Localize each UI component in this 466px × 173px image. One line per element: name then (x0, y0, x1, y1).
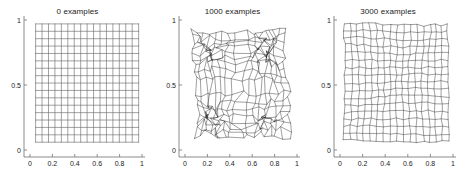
mesh-col-line (245, 35, 258, 135)
mesh-col-line (447, 24, 450, 141)
mesh-row-line (345, 52, 448, 55)
mesh-lattice (36, 24, 139, 142)
figure-canvas: 0 examples00.20.40.60.8100.51 1000 examp… (0, 0, 466, 173)
mesh-row-line (345, 59, 448, 61)
x-tick-label: 0.2 (203, 160, 213, 167)
y-tick-label: 0 (0, 147, 21, 154)
mesh-col-line (401, 24, 404, 142)
mesh-col-line (227, 33, 236, 137)
subplot-0-examples: 0 examples00.20.40.60.8100.51 (0, 0, 155, 173)
x-tick-label: 0.6 (403, 160, 413, 167)
mesh-row-line (344, 118, 448, 120)
subplot-1000-examples: 1000 examples00.20.40.60.8100.51 (155, 0, 310, 173)
mesh-row-line (344, 125, 449, 127)
mesh-col-line (427, 24, 431, 142)
mesh-row-line (343, 133, 449, 135)
plot-area (0, 0, 155, 173)
x-tick-label: 0.6 (247, 160, 257, 167)
mesh-row-line (346, 66, 448, 68)
x-tick-label: 0.2 (358, 160, 368, 167)
mesh-col-line (414, 24, 417, 142)
mesh-col-line (343, 24, 345, 140)
mesh-col-line (363, 23, 366, 141)
y-tick-label: 0 (155, 147, 176, 154)
mesh-row-line (344, 36, 448, 40)
y-tick-label: 1 (0, 17, 21, 24)
mesh-col-line (434, 24, 436, 142)
x-tick-label: 0.8 (115, 160, 125, 167)
mesh-row-line (344, 110, 448, 114)
y-tick-label: 0 (310, 147, 331, 154)
mesh-row-line (194, 66, 285, 78)
y-tick-label: 1 (310, 17, 331, 24)
y-tick-label: 0.5 (0, 82, 21, 89)
mesh-row-line (197, 114, 287, 125)
x-tick-label: 1 (451, 160, 455, 167)
mesh-row-line (343, 139, 449, 142)
plot-area (310, 0, 466, 173)
mesh-col-line (383, 25, 385, 142)
plot-area (155, 0, 310, 173)
x-tick-label: 0 (183, 160, 187, 167)
mesh-row-line (345, 81, 448, 85)
mesh-row-line (198, 97, 288, 111)
mesh-col-line (350, 23, 353, 139)
y-tick-label: 1 (155, 17, 176, 24)
mesh-col-line (390, 24, 391, 141)
mesh-col-line (369, 23, 373, 141)
x-tick-label: 0.6 (92, 160, 102, 167)
x-tick-label: 0.4 (380, 160, 390, 167)
y-tick-label: 0.5 (155, 82, 176, 89)
mesh-col-line (356, 24, 359, 140)
mesh-col-line (201, 33, 212, 130)
x-tick-label: 0.8 (426, 160, 436, 167)
subplot-3000-examples: 3000 examples00.20.40.60.8100.51 (310, 0, 466, 173)
mesh-row-line (191, 28, 286, 35)
y-tick-label: 0.5 (310, 82, 331, 89)
mesh-lattice (343, 23, 449, 143)
x-tick-label: 0.8 (270, 160, 280, 167)
mesh-col-line (421, 26, 425, 141)
mesh-row-line (345, 87, 448, 91)
mesh-lattice (191, 28, 291, 139)
mesh-col-line (408, 25, 411, 142)
mesh-col-line (376, 23, 379, 141)
mesh-col-line (441, 26, 443, 141)
mesh-row-line (344, 95, 449, 99)
x-tick-label: 1 (140, 160, 144, 167)
x-tick-label: 0 (338, 160, 342, 167)
x-tick-label: 0 (28, 160, 32, 167)
mesh-col-line (396, 25, 398, 141)
x-tick-label: 0.4 (70, 160, 80, 167)
x-tick-label: 0.4 (225, 160, 235, 167)
mesh-row-line (344, 73, 448, 75)
mesh-row-line (345, 102, 448, 106)
mesh-row-line (344, 23, 447, 27)
x-tick-label: 0.2 (48, 160, 58, 167)
x-tick-label: 1 (295, 160, 299, 167)
